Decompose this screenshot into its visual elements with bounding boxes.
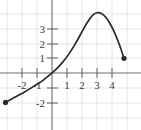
plot-area: -2 -1 1 2 3 4 -2 1 2 3 xyxy=(0,0,141,130)
x-tick-label-3: 3 xyxy=(94,79,100,91)
x-tick-label-2: 2 xyxy=(79,79,85,91)
y-tick-label-3: 3 xyxy=(40,23,46,35)
graph-figure: -2 -1 1 2 3 4 -2 1 2 3 xyxy=(0,0,141,130)
plot-background xyxy=(0,0,141,130)
x-tick-label-1: 1 xyxy=(64,79,70,91)
y-tick-label--2: -2 xyxy=(36,97,45,109)
endpoint-dot-left xyxy=(3,100,8,105)
x-tick-label--2: -2 xyxy=(17,79,26,91)
x-tick-label-4: 4 xyxy=(109,79,115,91)
y-tick-label-1: 1 xyxy=(40,52,46,64)
y-tick-label-2: 2 xyxy=(40,38,46,50)
endpoint-dot-right xyxy=(121,56,126,61)
